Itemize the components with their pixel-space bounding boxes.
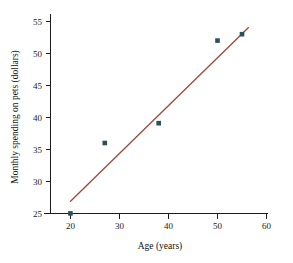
y-tick-label: 50 — [33, 49, 43, 59]
data-point — [103, 141, 108, 146]
y-tick-label: 40 — [33, 113, 43, 123]
scatterplot-canvas: 55 50 45 40 35 30 25 20 30 40 50 60 — [0, 0, 293, 263]
data-point — [156, 121, 161, 126]
y-axis-title: Monthly spending on pets (dollars) — [10, 50, 21, 184]
x-tick-label: 30 — [115, 221, 125, 231]
y-tick-label: 25 — [33, 209, 43, 219]
x-tick-label: 50 — [213, 221, 223, 231]
x-tick-label: 40 — [164, 221, 174, 231]
x-axis-title: Age (years) — [138, 241, 183, 252]
x-tick-label: 20 — [66, 221, 76, 231]
data-point — [68, 211, 73, 216]
y-tick-label: 55 — [33, 17, 43, 27]
data-point — [215, 38, 220, 43]
scatterplot-figure: 55 50 45 40 35 30 25 20 30 40 50 60 — [0, 0, 293, 263]
y-tick-label: 30 — [33, 177, 43, 187]
data-point — [240, 32, 245, 37]
figure-background — [0, 0, 293, 263]
y-tick-label: 45 — [33, 81, 43, 91]
x-tick-label: 60 — [262, 221, 272, 231]
y-tick-label: 35 — [33, 145, 43, 155]
